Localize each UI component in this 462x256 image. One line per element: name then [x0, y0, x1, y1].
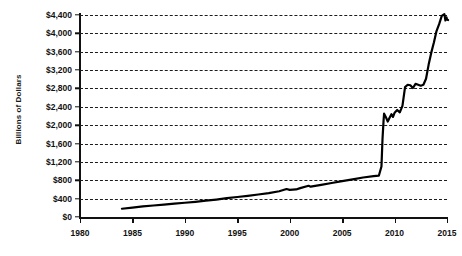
y-tick-label: $800 [18, 175, 72, 185]
x-tick-mark [290, 218, 291, 223]
y-tick-mark [75, 161, 80, 162]
x-tick-mark [185, 218, 186, 223]
y-tick-label: $400 [18, 194, 72, 204]
chart-container: Billions of Dollars $0$400$800$1,200$1,6… [0, 0, 462, 256]
x-tick-label: 1995 [212, 228, 262, 238]
y-tick-mark [75, 180, 80, 181]
y-tick-mark [75, 33, 80, 34]
plot-area [80, 15, 447, 217]
series-total-assets [122, 14, 448, 209]
x-tick-mark [342, 218, 343, 223]
x-tick-label: 1980 [55, 228, 105, 238]
x-tick-label: 2010 [370, 228, 420, 238]
y-tick-mark [75, 69, 80, 70]
x-tick-mark [395, 218, 396, 223]
y-tick-label: $2,400 [18, 102, 72, 112]
x-tick-label: 2015 [422, 228, 462, 238]
y-tick-mark [75, 216, 80, 217]
y-tick-label: $3,600 [18, 47, 72, 57]
x-tick-mark [80, 218, 81, 223]
x-tick-label: 1985 [107, 228, 157, 238]
y-tick-mark [75, 143, 80, 144]
y-tick-label: $2,800 [18, 83, 72, 93]
data-series-line [80, 15, 447, 217]
y-tick-mark [75, 124, 80, 125]
y-tick-label: $4,000 [18, 28, 72, 38]
y-tick-mark [75, 14, 80, 15]
y-tick-label: $0 [18, 212, 72, 222]
y-tick-label: $3,200 [18, 65, 72, 75]
x-axis-line [79, 217, 448, 219]
y-tick-mark [75, 106, 80, 107]
y-tick-mark [75, 51, 80, 52]
y-tick-mark [75, 198, 80, 199]
x-tick-mark [132, 218, 133, 223]
x-tick-label: 2005 [317, 228, 367, 238]
y-tick-label: $4,400 [18, 10, 72, 20]
y-axis-tick-labels: $0$400$800$1,200$1,600$2,000$2,400$2,800… [16, 0, 72, 256]
x-tick-mark [237, 218, 238, 223]
x-tick-label: 2000 [265, 228, 315, 238]
y-tick-label: $1,200 [18, 157, 72, 167]
y-tick-label: $1,600 [18, 139, 72, 149]
x-tick-label: 1990 [160, 228, 210, 238]
y-tick-label: $2,000 [18, 120, 72, 130]
x-tick-mark [447, 218, 448, 223]
y-tick-mark [75, 88, 80, 89]
